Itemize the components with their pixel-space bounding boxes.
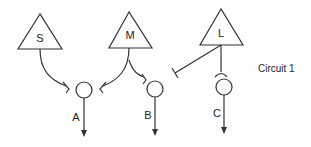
label-s: S (36, 32, 43, 44)
synapse-s-a (63, 82, 69, 93)
connection-m-a (103, 48, 129, 86)
label-l: L (218, 27, 224, 39)
diagram-title: Circuit 1 (258, 63, 295, 74)
label-b: B (144, 109, 151, 121)
connection-s-a (40, 49, 66, 86)
label-m: M (125, 29, 134, 41)
connection-l-b (175, 45, 221, 73)
synapse-m-b (142, 74, 146, 84)
label-c: C (213, 107, 221, 119)
circuit-diagram: S M L A B C Circuit 1 (0, 0, 311, 147)
neuron-a (76, 82, 92, 98)
arrow-down-icon (221, 127, 227, 134)
synapse-l-c (215, 74, 227, 78)
neuron-b (147, 81, 163, 97)
synapse-l-b (172, 68, 178, 78)
arrow-down-icon (81, 130, 87, 137)
label-a: A (72, 111, 80, 123)
neuron-c (216, 79, 232, 95)
synapse-m-a (100, 82, 106, 93)
arrow-down-icon (152, 129, 158, 136)
